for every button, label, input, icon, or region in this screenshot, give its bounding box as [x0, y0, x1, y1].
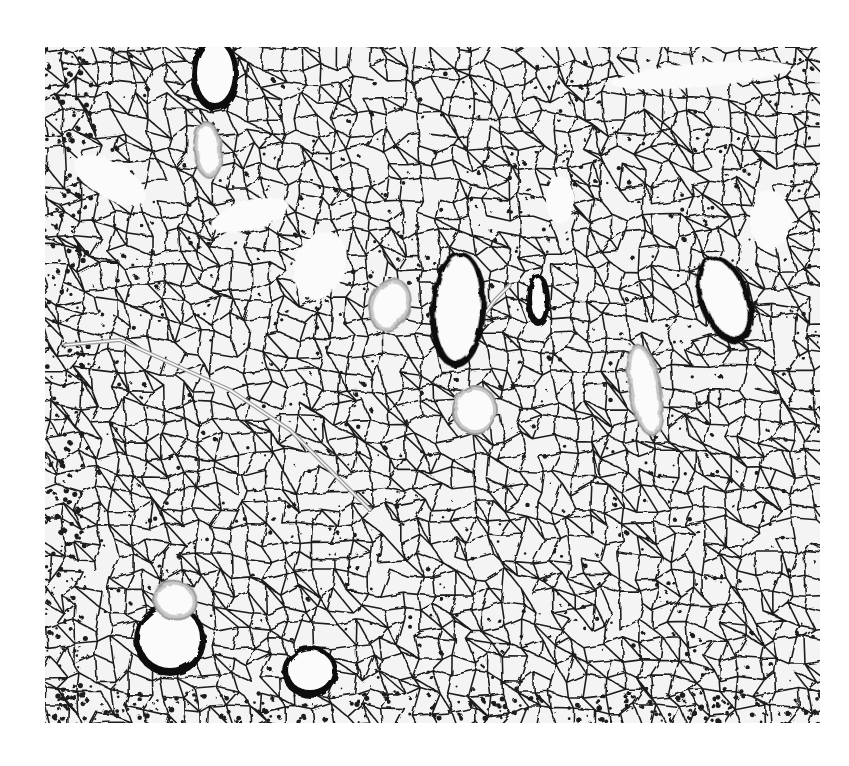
bronchiole-lumen — [532, 278, 544, 318]
septal-node — [101, 704, 104, 707]
septal-node — [118, 383, 122, 387]
dense-septa — [681, 694, 686, 699]
septal-node — [315, 306, 319, 310]
septal-node — [732, 505, 736, 509]
septal-node — [90, 371, 92, 373]
septal-node — [769, 662, 774, 667]
dense-septa — [624, 699, 629, 704]
dense-septa — [725, 711, 729, 715]
septal-node — [795, 186, 797, 188]
septal-node — [107, 80, 112, 85]
septal-node — [770, 439, 773, 442]
septal-node — [492, 677, 495, 680]
septal-node — [673, 518, 677, 522]
dense-septa — [75, 126, 80, 131]
dense-septa — [54, 626, 56, 628]
septal-node — [487, 708, 490, 711]
dense-septa — [650, 710, 653, 713]
septal-node — [514, 249, 517, 252]
dense-septa — [63, 78, 68, 83]
septal-node — [153, 201, 156, 204]
septal-node — [775, 581, 778, 584]
dense-septa — [80, 48, 83, 51]
septal-node — [688, 518, 693, 523]
septal-node — [722, 609, 726, 613]
septal-node — [708, 607, 712, 611]
septal-node — [508, 306, 511, 309]
septal-node — [115, 139, 118, 142]
septal-node — [583, 60, 587, 64]
septal-node — [730, 258, 733, 261]
septal-node — [431, 615, 434, 618]
septal-node — [562, 509, 565, 512]
septal-node — [646, 537, 649, 540]
dense-septa — [666, 694, 669, 697]
dense-septa — [68, 129, 70, 131]
septal-node — [469, 704, 473, 708]
dense-septa — [64, 481, 66, 483]
dense-septa — [76, 193, 81, 198]
septal-node — [45, 190, 47, 192]
septal-node — [78, 253, 82, 257]
dense-septa — [256, 691, 261, 696]
septal-node — [535, 506, 537, 508]
septal-node — [613, 497, 616, 500]
septal-node — [769, 100, 772, 103]
septal-node — [320, 588, 322, 590]
dense-septa — [404, 693, 407, 696]
septal-node — [556, 592, 559, 595]
septal-node — [251, 371, 254, 374]
dense-septa — [711, 704, 716, 709]
septal-node — [689, 131, 691, 133]
dense-septa — [313, 704, 315, 706]
septal-node — [694, 582, 697, 585]
dense-septa — [55, 634, 60, 639]
septal-node — [769, 523, 772, 526]
septal-node — [259, 294, 262, 297]
septal-node — [583, 138, 586, 141]
septal-node — [657, 196, 659, 198]
septal-node — [418, 390, 423, 395]
septal-node — [343, 321, 347, 325]
septal-node — [402, 523, 405, 526]
dense-septa — [85, 312, 88, 315]
septal-node — [232, 689, 235, 692]
septal-node — [50, 409, 52, 411]
septal-node — [561, 304, 563, 306]
septal-node — [814, 561, 817, 564]
septal-node — [526, 645, 529, 648]
septal-node — [507, 209, 510, 212]
septal-node — [534, 64, 539, 69]
dense-septa — [62, 384, 67, 389]
dense-septa — [103, 709, 108, 714]
septal-node — [272, 517, 277, 522]
septal-node — [336, 469, 340, 473]
dense-septa — [174, 696, 179, 701]
dense-septa — [47, 600, 51, 604]
septal-node — [104, 610, 107, 613]
septal-node — [736, 668, 739, 671]
dense-septa — [51, 223, 53, 225]
septal-node — [408, 172, 410, 174]
septal-node — [719, 661, 722, 664]
septal-node — [442, 586, 444, 588]
septal-node — [219, 179, 222, 182]
dense-septa — [78, 667, 80, 669]
septal-node — [544, 455, 549, 460]
septal-node — [674, 120, 677, 123]
dense-septa — [500, 697, 505, 702]
septal-node — [508, 177, 513, 182]
septal-node — [63, 592, 65, 594]
septal-node — [348, 565, 351, 568]
septal-node — [426, 669, 429, 672]
septal-node — [370, 378, 373, 381]
septal-node — [793, 315, 797, 319]
septal-node — [154, 704, 156, 706]
septal-node — [719, 150, 723, 154]
septal-node — [202, 432, 205, 435]
septal-node — [765, 428, 769, 432]
septal-node — [68, 283, 72, 287]
septal-node — [269, 186, 271, 188]
septal-node — [619, 57, 621, 59]
dense-septa — [46, 614, 48, 616]
